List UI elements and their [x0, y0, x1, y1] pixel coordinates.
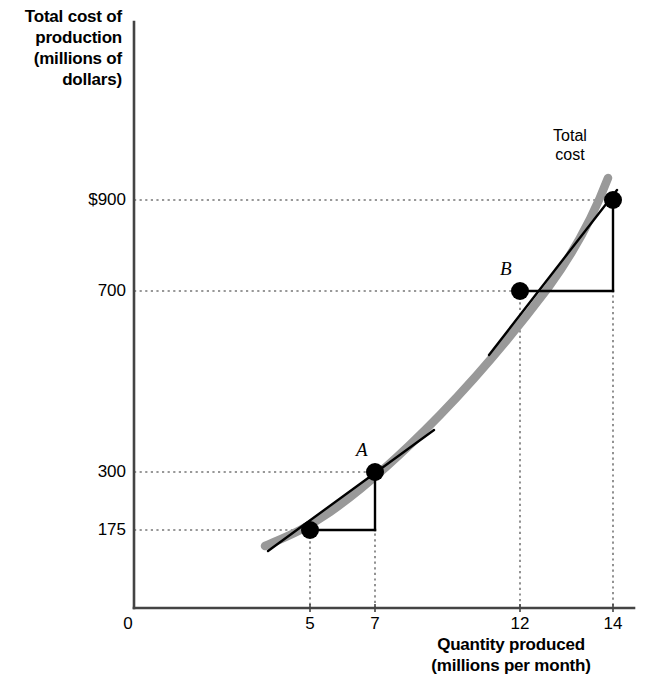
curve-label-line1: Total: [535, 126, 605, 145]
y-tick-label-700: 700: [42, 281, 126, 300]
curve-label-total-cost: Total cost: [535, 126, 605, 164]
x-axis-title-line2: (millions per month): [385, 655, 637, 676]
x-tick-label-12: 12: [500, 614, 540, 633]
total-cost-curve: [265, 178, 608, 546]
chart-figure: Total cost of production (millions of do…: [0, 0, 645, 690]
y-axis-title-line3: (millions of: [0, 48, 122, 69]
point-label-B: B: [500, 259, 512, 279]
x-tick-label-5: 5: [290, 614, 330, 633]
y-tick-label-175: 175: [42, 520, 126, 539]
y-axis-title-line1: Total cost of: [0, 6, 122, 27]
marker-point-B-12-700: [511, 282, 529, 300]
curve-label-line2: cost: [535, 145, 605, 164]
x-axis-title-line1: Quantity produced: [385, 634, 637, 655]
marker-point-high-14-900: [604, 191, 622, 209]
total-cost-curve-plot: [0, 0, 645, 690]
axes: [134, 22, 634, 608]
x-tick-label-14: 14: [593, 614, 633, 633]
y-tick-label-900: $900: [42, 190, 126, 209]
x-tick-label-7: 7: [355, 614, 395, 633]
tangent-line-A: [268, 430, 434, 551]
y-tick-label-300: 300: [42, 462, 126, 481]
x-tick-label-0: 0: [108, 614, 148, 633]
marker-point-A-7-300: [366, 463, 384, 481]
marker-point-low-5-175: [301, 521, 319, 539]
x-axis-title: Quantity produced (millions per month): [385, 634, 637, 676]
y-axis-title-line2: production: [0, 27, 122, 48]
y-axis-title-line4: dollars): [0, 69, 122, 90]
point-label-A: A: [356, 440, 368, 460]
y-axis-title: Total cost of production (millions of do…: [0, 6, 122, 90]
